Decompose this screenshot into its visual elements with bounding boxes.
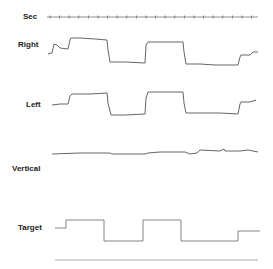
right-eye-trace <box>48 38 258 65</box>
target-trace <box>55 220 260 241</box>
vertical-trace <box>52 149 258 154</box>
left-eye-trace <box>52 92 256 115</box>
traces-canvas <box>0 0 273 269</box>
eye-tracking-figure: Sec Right Left Vertical Target <box>0 0 273 269</box>
sec-timeline <box>47 16 258 19</box>
